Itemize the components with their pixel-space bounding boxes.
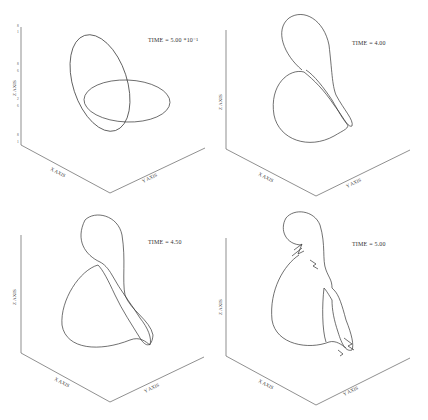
z-axis-label: Z AXIS [12, 289, 17, 305]
plot-3d: Z AXIS X AXIS Y AXIS [214, 210, 428, 420]
z-axis-label: Z AXIS [218, 299, 223, 315]
svg-text:1: 1 [17, 140, 19, 144]
plot-3d: Z AXIS X AXIS Y AXIS [214, 0, 428, 210]
axes [226, 238, 410, 405]
time-label: TIME = 5.00 *10⁻¹ [148, 36, 198, 43]
curve [62, 215, 153, 347]
z-axis-label: Z AXIS [218, 94, 223, 110]
axes [21, 27, 205, 193]
y-axis-label: Y AXIS [342, 385, 359, 397]
curve [59, 27, 171, 139]
z-axis-ticks: 8 1 8 6 2 6 8 1 [17, 24, 19, 144]
svg-text:8: 8 [17, 133, 19, 137]
panel-time-4.50: Z AXIS X AXIS Y AXIS TIME = 4.50 [0, 210, 214, 420]
curve [272, 212, 354, 356]
panel-time-4.00: Z AXIS X AXIS Y AXIS TIME = 4.00 [214, 0, 428, 210]
z-axis-label: Z AXIS [12, 80, 17, 96]
time-label: TIME = 4.50 [148, 239, 182, 245]
panel-time-5.00: Z AXIS X AXIS Y AXIS TIME = 5.00 [214, 210, 428, 420]
svg-text:6: 6 [17, 104, 19, 108]
y-axis-label: Y AXIS [143, 382, 160, 394]
time-label: TIME = 4.00 [352, 40, 386, 46]
x-axis-label: X AXIS [54, 376, 71, 388]
svg-text:8: 8 [17, 62, 19, 66]
svg-text:6: 6 [17, 69, 19, 73]
svg-text:1: 1 [17, 30, 19, 34]
x-axis-label: X AXIS [258, 378, 275, 390]
y-axis-label: Y AXIS [345, 177, 362, 189]
svg-text:8: 8 [17, 24, 19, 28]
time-label: TIME = 5.00 [352, 241, 386, 247]
curve [273, 14, 352, 142]
axes [21, 235, 204, 402]
axes [226, 30, 410, 196]
svg-text:2: 2 [17, 97, 19, 101]
plot-3d: 8 1 8 6 2 6 8 1 Z AXIS X AXIS Y AXIS [0, 0, 214, 210]
panel-time-0.5: 8 1 8 6 2 6 8 1 Z AXIS X AXIS Y AXIS TIM… [0, 0, 214, 210]
plot-3d: Z AXIS X AXIS Y AXIS [0, 210, 214, 420]
